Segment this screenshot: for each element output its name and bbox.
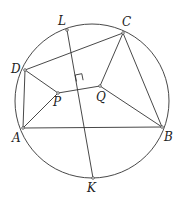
segment-CB bbox=[123, 33, 162, 127]
point-B bbox=[161, 126, 164, 129]
label-D: D bbox=[10, 62, 21, 76]
segments bbox=[23, 30, 162, 178]
segment-DP bbox=[25, 70, 58, 93]
points bbox=[22, 29, 164, 180]
label-B: B bbox=[163, 130, 173, 144]
segment-AB bbox=[23, 127, 162, 128]
label-C: C bbox=[122, 15, 131, 29]
segment-CQ bbox=[100, 33, 123, 86]
point-K bbox=[92, 177, 95, 180]
point-C bbox=[122, 32, 125, 35]
label-Q: Q bbox=[96, 90, 106, 104]
label-A: A bbox=[11, 131, 21, 145]
segment-LK bbox=[67, 30, 93, 178]
geometry-diagram: LCDABKPQ bbox=[0, 0, 183, 212]
segment-DA bbox=[23, 70, 25, 128]
point-L bbox=[66, 29, 69, 32]
point-P bbox=[57, 92, 60, 95]
point-Q bbox=[99, 85, 102, 88]
segment-PQ bbox=[58, 86, 100, 93]
segment-QB bbox=[100, 86, 162, 127]
segment-DC bbox=[25, 33, 123, 70]
right-angle-marker bbox=[75, 74, 83, 82]
label-P: P bbox=[52, 95, 62, 109]
point-A bbox=[22, 127, 25, 130]
label-K: K bbox=[86, 181, 97, 195]
label-L: L bbox=[57, 14, 66, 28]
point-D bbox=[24, 69, 27, 72]
circumcircle bbox=[15, 24, 169, 178]
